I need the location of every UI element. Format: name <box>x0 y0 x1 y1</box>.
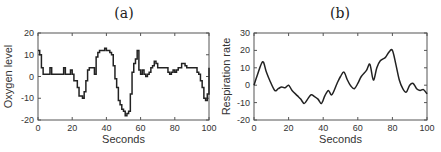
x-tick-label: 0 <box>35 123 40 133</box>
y-tick-label: 0 <box>29 72 34 82</box>
y-tick-label: 20 <box>240 45 250 55</box>
y-tick-label: -20 <box>21 115 34 125</box>
panel-a: (a) 020406080100-20-1001020SecondsOxygen… <box>0 0 220 152</box>
oxygen-level-chart: 020406080100-20-1001020SecondsOxygen lev… <box>0 0 220 152</box>
y-axis-label: Oxygen level <box>2 45 14 109</box>
x-tick-label: 100 <box>419 123 434 133</box>
y-tick-label: 20 <box>24 28 34 38</box>
y-tick-label: 10 <box>240 63 250 73</box>
x-tick-label: 80 <box>170 123 180 133</box>
x-tick-label: 0 <box>251 123 256 133</box>
plot-frame <box>38 33 209 120</box>
x-tick-label: 20 <box>284 123 294 133</box>
y-axis-label: Respiration rate <box>220 38 232 116</box>
x-axis-label: Seconds <box>319 133 362 145</box>
x-tick-label: 40 <box>318 123 328 133</box>
y-tick-label: -10 <box>21 93 34 103</box>
data-series-line <box>38 48 209 115</box>
y-tick-label: -20 <box>237 115 250 125</box>
data-series-line <box>254 50 427 104</box>
x-tick-label: 40 <box>101 123 111 133</box>
x-axis-label: Seconds <box>102 133 145 145</box>
x-tick-label: 20 <box>67 123 77 133</box>
y-tick-label: 30 <box>240 28 250 38</box>
y-tick-label: 10 <box>24 50 34 60</box>
panel-b: (b) 020406080100-20-100102030SecondsResp… <box>220 0 440 152</box>
y-tick-label: 0 <box>245 80 250 90</box>
x-tick-label: 60 <box>136 123 146 133</box>
y-tick-label: -10 <box>237 98 250 108</box>
x-tick-label: 100 <box>201 123 216 133</box>
respiration-rate-chart: 020406080100-20-100102030SecondsRespirat… <box>220 0 441 152</box>
x-tick-label: 80 <box>387 123 397 133</box>
x-tick-label: 60 <box>353 123 363 133</box>
